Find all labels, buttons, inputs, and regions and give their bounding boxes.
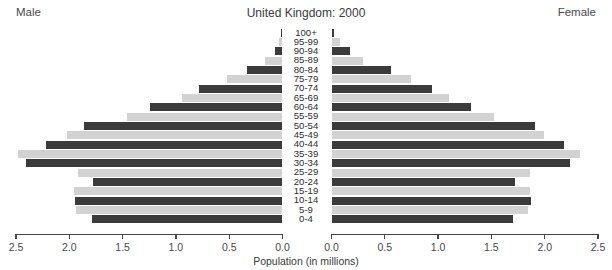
age-label-85-89: 85-89 — [0, 55, 612, 65]
pyramid-row: 10-14 — [0, 196, 612, 205]
right-axis-line — [332, 234, 599, 235]
age-label-100+: 100+ — [0, 28, 612, 38]
chart-header: Male United Kingdom: 2000 Female — [0, 6, 612, 26]
right-tick — [331, 234, 332, 239]
axis-area: 2.52.01.51.00.50.00.00.51.01.52.02.5Popu… — [0, 234, 612, 270]
bar-male-65-69 — [182, 94, 282, 102]
left-tick — [15, 234, 16, 239]
bar-female-90-94 — [332, 47, 350, 55]
bar-male-75-79 — [227, 75, 282, 83]
pyramid-row: 85-89 — [0, 56, 612, 65]
pyramid-row: 70-74 — [0, 84, 612, 93]
pyramid-row: 55-59 — [0, 112, 612, 121]
pyramid-row: 45-49 — [0, 131, 612, 140]
bar-female-95-99 — [332, 38, 341, 46]
bar-female-25-29 — [332, 169, 530, 177]
bar-female-15-19 — [332, 187, 530, 195]
bar-male-70-74 — [199, 85, 282, 93]
bar-male-80-84 — [247, 66, 282, 74]
left-tick-label-2.0: 2.0 — [62, 241, 77, 253]
bar-male-90-94 — [275, 47, 282, 55]
age-label-80-84: 80-84 — [0, 65, 612, 75]
right-tick-label-1.0: 1.0 — [431, 241, 446, 253]
bar-male-30-34 — [26, 159, 283, 167]
bar-female-85-89 — [332, 57, 364, 65]
bar-male-10-14 — [75, 197, 283, 205]
left-axis-line — [16, 234, 283, 235]
pyramid-row: 15-19 — [0, 187, 612, 196]
pyramid-row: 40-44 — [0, 140, 612, 149]
pyramid-row: 50-54 — [0, 121, 612, 130]
left-tick — [282, 234, 283, 239]
left-tick — [229, 234, 230, 239]
left-tick-label-0.5: 0.5 — [222, 241, 237, 253]
bar-female-0-4 — [332, 215, 513, 223]
pyramid-row: 20-24 — [0, 177, 612, 186]
pyramid-row: 95-99 — [0, 37, 612, 46]
age-label-65-69: 65-69 — [0, 93, 612, 103]
bar-female-30-34 — [332, 159, 571, 167]
bar-male-15-19 — [74, 187, 283, 195]
bar-male-40-44 — [46, 141, 283, 149]
bar-female-45-49 — [332, 131, 544, 139]
age-label-60-64: 60-64 — [0, 102, 612, 112]
pyramid-row: 60-64 — [0, 103, 612, 112]
bar-male-25-29 — [78, 169, 283, 177]
pyramid-row: 80-84 — [0, 65, 612, 74]
pyramid-row: 25-29 — [0, 168, 612, 177]
left-tick — [175, 234, 176, 239]
left-tick-label-1.5: 1.5 — [115, 241, 130, 253]
age-label-95-99: 95-99 — [0, 37, 612, 47]
bar-male-35-39 — [18, 150, 282, 158]
pyramid-row: 35-39 — [0, 149, 612, 158]
age-label-90-94: 90-94 — [0, 46, 612, 56]
bar-female-80-84 — [332, 66, 392, 74]
bar-male-5-9 — [76, 206, 283, 214]
right-tick — [597, 234, 598, 239]
bar-male-0-4 — [92, 215, 283, 223]
bar-male-55-59 — [127, 113, 283, 121]
pyramid-row: 30-34 — [0, 159, 612, 168]
bar-female-75-79 — [332, 75, 412, 83]
left-tick — [122, 234, 123, 239]
left-tick-label-2.5: 2.5 — [9, 241, 24, 253]
bar-female-60-64 — [332, 103, 472, 111]
bar-female-20-24 — [332, 178, 515, 186]
bar-male-85-89 — [265, 57, 282, 65]
bar-female-55-59 — [332, 113, 494, 121]
right-tick — [384, 234, 385, 239]
pyramid-row: 5-9 — [0, 205, 612, 214]
bar-female-5-9 — [332, 206, 528, 214]
age-label-55-59: 55-59 — [0, 111, 612, 121]
right-tick — [544, 234, 545, 239]
pyramid-row: 0-4 — [0, 215, 612, 224]
bar-male-95-99 — [279, 38, 282, 46]
bar-female-50-54 — [332, 122, 536, 130]
bar-male-60-64 — [150, 103, 282, 111]
pyramid-row: 90-94 — [0, 47, 612, 56]
bar-female-65-69 — [332, 94, 449, 102]
female-legend-label: Female — [558, 6, 596, 18]
plot-area: 100+95-9990-9485-8980-8475-7970-7465-696… — [0, 28, 612, 234]
right-tick — [491, 234, 492, 239]
left-tick — [69, 234, 70, 239]
bar-female-10-14 — [332, 197, 531, 205]
right-tick-label-0.5: 0.5 — [377, 241, 392, 253]
right-tick-label-2.5: 2.5 — [591, 241, 606, 253]
bar-female-70-74 — [332, 85, 432, 93]
left-tick-label-0.0: 0.0 — [275, 241, 290, 253]
right-tick-label-0.0: 0.0 — [324, 241, 339, 253]
right-tick-label-1.5: 1.5 — [484, 241, 499, 253]
bar-male-20-24 — [93, 178, 283, 186]
bar-female-40-44 — [332, 141, 564, 149]
bar-male-50-54 — [84, 122, 282, 130]
bar-female-35-39 — [332, 150, 580, 158]
pyramid-row: 65-69 — [0, 93, 612, 102]
right-tick — [437, 234, 438, 239]
pyramid-row: 100+ — [0, 28, 612, 37]
axis-title: Population (in millions) — [0, 255, 612, 267]
chart-title: United Kingdom: 2000 — [0, 6, 612, 20]
bar-male-100+ — [281, 29, 282, 37]
bar-female-100+ — [332, 29, 334, 37]
age-label-70-74: 70-74 — [0, 83, 612, 93]
